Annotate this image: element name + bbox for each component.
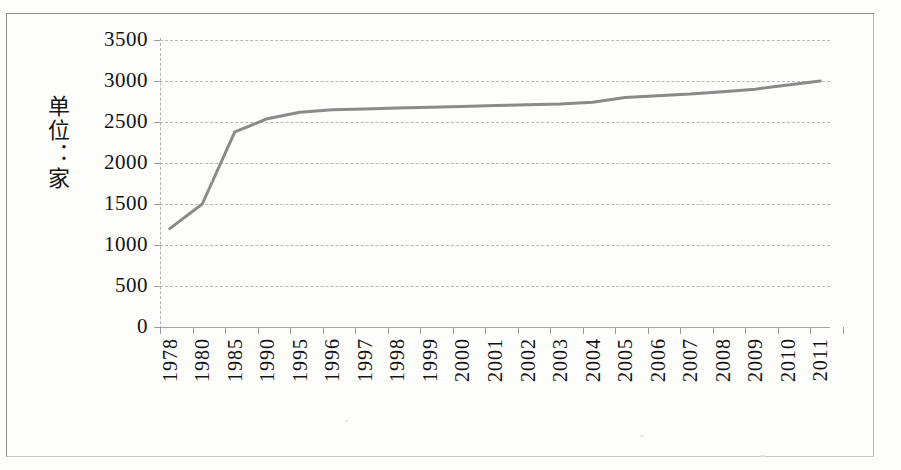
line-chart: 单位：家 0500100015002000250030003500 197819… [0,0,901,470]
x-axis-tick-mark [550,327,551,334]
scan-artifact [700,200,703,202]
x-axis-tick-mark [323,327,324,334]
x-axis-tick-mark [615,327,616,334]
x-axis-tick-label: 2010 [778,338,798,382]
x-axis-tick-mark [583,327,584,334]
x-axis-tick-label: 2001 [485,338,505,382]
x-axis-tick-label: 2002 [518,338,538,382]
y-axis-tick-label: 0 [60,316,148,337]
x-axis-tick-label: 1995 [290,338,310,382]
y-axis-tick-labels: 0500100015002000250030003500 [52,0,148,340]
x-axis-tick-mark [160,327,161,334]
x-axis-tick-mark [258,327,259,334]
y-axis-tick-label: 3000 [60,70,148,91]
x-axis-tick-mark [485,327,486,334]
x-axis-tick-mark [518,327,519,334]
x-axis-tick-mark [680,327,681,334]
x-axis-tick-mark [778,327,779,334]
x-axis-tick-label: 2003 [550,338,570,382]
x-axis-tick-mark [810,327,811,334]
x-axis-tick-mark [193,327,194,334]
x-axis-tick-label: 1980 [192,338,212,382]
x-axis-tick-label: 2000 [452,338,472,382]
scan-artifact [210,180,212,182]
x-axis-tick-label: 2007 [680,338,700,382]
y-axis-tick-label: 1500 [60,193,148,214]
x-axis-tick-mark [388,327,389,334]
x-axis-tick-mark [355,327,356,334]
x-axis-line [160,327,830,328]
x-axis-tick-mark [745,327,746,334]
x-axis-tick-label: 1996 [322,338,342,382]
x-axis-tick-label: 2006 [648,338,668,382]
y-axis-tick-label: 1000 [60,234,148,255]
x-axis-tick-mark [420,327,421,334]
x-axis-tick-label: 2004 [583,338,603,382]
x-axis-tick-label: 1990 [257,338,277,382]
x-axis-tick-label: 2008 [713,338,733,382]
x-axis-tick-mark [713,327,714,334]
y-axis-tick-label: 3500 [60,29,148,50]
x-axis-tick-mark [648,327,649,334]
x-axis-tick-label: 1999 [420,338,440,382]
scan-artifact [760,455,765,457]
x-axis-tick-label: 1997 [355,338,375,382]
x-axis-tick-label: 1985 [225,338,245,382]
x-axis-tick-label: 2011 [810,338,830,381]
x-axis-tick-mark [225,327,226,334]
x-axis-tick-mark [290,327,291,334]
x-axis-tick-label: 2005 [615,338,635,382]
y-axis-tick-label: 500 [60,275,148,296]
data-series-line [160,40,830,327]
x-axis-tick-mark [843,327,844,334]
y-axis-tick-label: 2500 [60,111,148,132]
x-axis-tick-mark [453,327,454,334]
y-axis-tick-label: 2000 [60,152,148,173]
scan-artifact [640,435,644,437]
x-axis-tick-label: 1978 [160,338,180,382]
x-axis-tick-label: 2009 [745,338,765,382]
scan-artifact [345,420,348,422]
x-axis-tick-label: 1998 [387,338,407,382]
